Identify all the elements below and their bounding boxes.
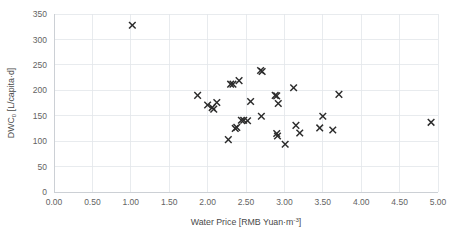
scatter-chart: 0.000.501.001.502.002.503.003.504.004.50… bbox=[0, 0, 455, 235]
data-point bbox=[316, 125, 323, 132]
y-tick-label: 250 bbox=[33, 60, 47, 70]
x-tick-label: 2.00 bbox=[199, 197, 216, 207]
data-point bbox=[258, 113, 265, 120]
x-tick-label: 2.50 bbox=[238, 197, 255, 207]
data-point bbox=[225, 136, 232, 143]
x-tick-labels: 0.000.501.001.502.002.503.003.504.004.50… bbox=[46, 197, 447, 207]
data-point bbox=[296, 130, 303, 137]
y-tick-label: 350 bbox=[33, 9, 47, 19]
y-tick-label: 300 bbox=[33, 35, 47, 45]
data-point bbox=[329, 127, 336, 134]
plot-canvas: 0.000.501.001.502.002.503.003.504.004.50… bbox=[0, 0, 455, 235]
x-tick-label: 0.00 bbox=[46, 197, 63, 207]
x-tick-label: 5.00 bbox=[430, 197, 447, 207]
y-tick-label: 0 bbox=[42, 187, 47, 197]
data-point bbox=[236, 77, 243, 84]
y-tick-label: 100 bbox=[33, 136, 47, 146]
data-point bbox=[293, 122, 300, 129]
x-axis-title: Water Price [RMB Yuan·m-3] bbox=[191, 216, 302, 227]
x-tick-label: 3.00 bbox=[276, 197, 293, 207]
data-point bbox=[282, 141, 289, 148]
data-point bbox=[214, 99, 221, 106]
data-point bbox=[194, 92, 201, 99]
data-point bbox=[129, 22, 136, 29]
x-tick-label: 1.50 bbox=[161, 197, 178, 207]
x-tick-label: 4.00 bbox=[353, 197, 370, 207]
y-tick-label: 50 bbox=[38, 162, 48, 172]
x-tick-label: 3.50 bbox=[315, 197, 332, 207]
y-tick-labels: 050100150200250300350 bbox=[33, 9, 47, 197]
x-tick-label: 1.00 bbox=[123, 197, 140, 207]
data-markers bbox=[129, 22, 434, 148]
x-tick-label: 4.50 bbox=[391, 197, 408, 207]
y-tick-label: 150 bbox=[33, 111, 47, 121]
data-point bbox=[428, 119, 435, 126]
data-point bbox=[247, 98, 254, 105]
gridlines bbox=[54, 14, 438, 192]
data-point bbox=[275, 100, 282, 107]
y-axis-title: DWC0 [L/capita·d] bbox=[6, 68, 17, 138]
x-tick-label: 0.50 bbox=[84, 197, 101, 207]
data-point bbox=[336, 91, 343, 98]
y-tick-label: 200 bbox=[33, 85, 47, 95]
